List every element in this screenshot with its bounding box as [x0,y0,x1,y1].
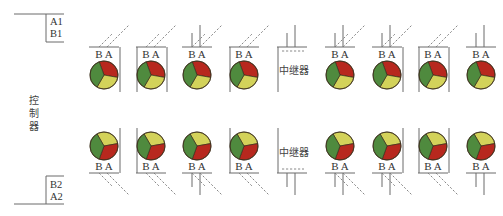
bus-bottom-bracket: B2 A2 [14,176,64,204]
repeater-label: 中继器 [279,64,309,76]
tri-color-light-icon [183,61,211,89]
terminal-label-ba: B A [472,160,489,172]
terminal-label-ba: B A [142,48,159,60]
tri-color-light-icon [137,61,165,89]
terminal-label-ba: B A [235,160,252,172]
terminal-label-ba: B A [188,48,205,60]
light-unit: B A [418,128,458,195]
terminal-label-ba: B A [95,160,112,172]
tri-color-light-icon [90,61,118,89]
bus-top-bracket: A1 B1 [14,14,64,42]
light-unit: B A [418,25,458,92]
controller-char-1: 控 [29,94,39,106]
tri-color-light-icon [467,132,495,160]
light-unit: B A [466,25,496,89]
terminal-label-ba: B A [378,160,395,172]
light-unit: B A [466,132,496,195]
tri-color-light-icon [326,61,354,89]
terminal-label-ba: B A [235,48,252,60]
terminal-label-ba: B A [188,160,205,172]
tri-color-light-icon [419,61,447,89]
repeater-label: 中继器 [279,146,309,158]
bus-label-a2: A2 [50,191,63,202]
tri-color-light-icon [373,132,401,160]
terminal-label-ba: B A [424,48,441,60]
light-unit: B A [372,128,412,195]
terminal-label-ba: B A [331,160,348,172]
light-unit: B A [182,25,222,89]
bus-label-b2: B2 [50,179,62,190]
bus-label-b1: B1 [50,28,62,39]
bottom-row-units: B AB AB AB A中继器B AB AB AB A [89,128,496,195]
light-unit: B A [136,25,176,92]
tri-color-light-icon [373,61,401,89]
terminal-label-ba: B A [378,48,395,60]
light-unit: B A [89,25,129,92]
controller-char-2: 制 [29,107,39,119]
light-unit: B A [182,132,222,195]
tri-color-light-icon [183,132,211,160]
bus-label-a1: A1 [50,16,63,27]
light-unit: B A [89,128,129,195]
wiring-diagram: A1 B1 B2 A2 控 制 器 B AB AB AB A中继器B AB AB… [0,0,503,216]
terminal-label-ba: B A [424,160,441,172]
tri-color-light-icon [230,61,258,89]
light-unit: B A [325,132,365,195]
tri-color-light-icon [90,132,118,160]
terminal-label-ba: B A [95,48,112,60]
repeater-unit: 中继器 [277,25,309,92]
tri-color-light-icon [419,132,447,160]
light-unit: B A [229,25,269,92]
terminal-label-ba: B A [331,48,348,60]
light-unit: B A [136,128,176,195]
controller-char-3: 器 [29,121,39,132]
terminal-label-ba: B A [142,160,159,172]
terminal-label-ba: B A [472,48,489,60]
light-unit: B A [325,25,365,89]
top-row-units: B AB AB AB A中继器B AB AB AB A [89,25,496,92]
controller-label: 控 制 器 [29,94,39,132]
light-unit: B A [229,128,269,195]
repeater-unit: 中继器 [277,128,309,195]
tri-color-light-icon [137,132,165,160]
tri-color-light-icon [467,61,495,89]
tri-color-light-icon [230,132,258,160]
light-unit: B A [372,25,412,92]
tri-color-light-icon [326,132,354,160]
